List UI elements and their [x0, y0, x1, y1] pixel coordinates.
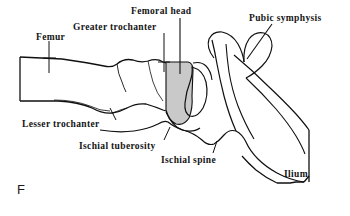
greater-trochanter-contour — [117, 64, 126, 92]
label-ischial-spine: Ischial spine — [161, 156, 216, 166]
leader-lines — [43, 18, 272, 153]
femur-superior-border — [20, 57, 166, 67]
leader-tick-lesser-trochanter — [110, 108, 116, 120]
label-femoral-head: Femoral head — [131, 7, 191, 17]
anatomy-figure: Femur Greater trochanter Femoral head Pu… — [0, 0, 350, 216]
ilium-superior-border — [234, 55, 309, 130]
label-greater-trochanter: Greater trochanter — [73, 23, 157, 33]
label-ischial-tuberosity: Ischial tuberosity — [79, 142, 156, 152]
ischium-inferior-border — [100, 121, 183, 131]
ilium-bottom-border — [277, 182, 304, 183]
label-lesser-trochanter: Lesser trochanter — [22, 120, 100, 130]
ischial-spine-outline — [183, 130, 236, 145]
panel-letter: F — [17, 183, 25, 196]
ilium-iliac-line — [246, 78, 305, 154]
inferior-pubic-ramus — [226, 44, 254, 139]
leader-line-pubic-symphysis — [247, 24, 272, 59]
label-ilium: Ilium — [284, 170, 308, 180]
acetabular-rim — [193, 62, 212, 80]
superior-pubic-ramus — [212, 40, 236, 131]
label-pubic-symphysis: Pubic symphysis — [249, 14, 322, 24]
pubic-loop-right — [244, 33, 272, 78]
femoral-neck-contour — [148, 61, 163, 101]
leader-tick-ischial-tuberosity — [164, 127, 170, 140]
label-femur: Femur — [36, 33, 65, 43]
